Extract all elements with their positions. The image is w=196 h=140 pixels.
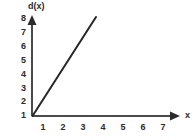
y-axis-arrow-icon — [28, 15, 37, 25]
y-tick-label: 5 — [14, 55, 26, 65]
y-tick-label: 2 — [14, 96, 26, 106]
x-axis — [32, 112, 180, 121]
y-tick-label: 4 — [14, 69, 26, 79]
x-tick-label: 5 — [117, 122, 129, 132]
x-tick-label: 6 — [137, 122, 149, 132]
y-axis-title: d(x) — [28, 1, 45, 11]
x-tick-label: 2 — [57, 122, 69, 132]
y-tick-label: 8 — [14, 13, 26, 23]
x-tick-label: 7 — [157, 122, 169, 132]
y-tick-label: 7 — [14, 27, 26, 37]
x-axis-arrow-icon — [170, 112, 180, 121]
x-tick-label: 4 — [97, 122, 109, 132]
y-axis — [28, 15, 37, 116]
y-tick-label: 1 — [14, 110, 26, 120]
y-tick-label: 6 — [14, 41, 26, 51]
y-tick-label: 3 — [14, 83, 26, 93]
x-axis-title: x — [185, 110, 190, 120]
chart-canvas — [0, 0, 196, 140]
data-series-line — [33, 17, 97, 116]
x-tick-label: 3 — [77, 122, 89, 132]
x-tick-label: 1 — [37, 122, 49, 132]
line-chart: d(x) x 8 7 6 5 4 3 2 1 1 2 3 4 5 6 7 — [0, 0, 196, 140]
